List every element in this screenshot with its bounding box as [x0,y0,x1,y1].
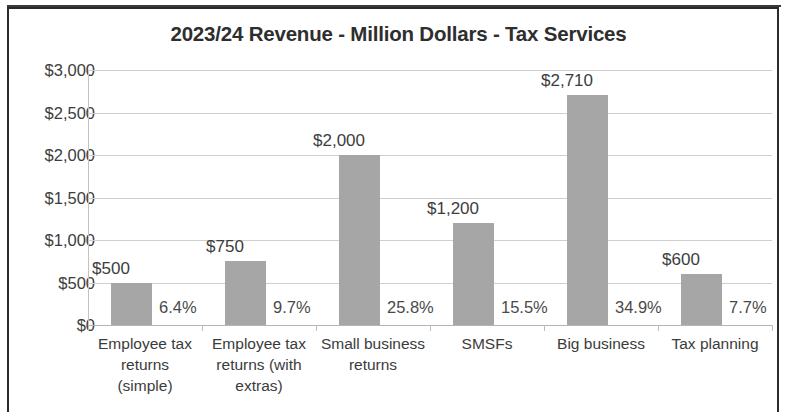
category-label-line: returns [88,354,202,375]
y-axis-tick-label: $1,500 [17,188,95,207]
x-axis-tick [202,325,203,331]
x-axis-category-label: Big business [544,333,658,354]
category-label-line: Small business [316,333,430,354]
x-axis-tick [430,325,431,331]
category-label-line: Employee tax [88,333,202,354]
bar[interactable] [453,223,494,325]
x-axis-category-label: Small businessreturns [316,333,430,375]
y-axis-tick-label: $2,500 [17,103,95,122]
bar-group: $5006.4% [88,70,202,325]
x-axis-category-label: Tax planning [658,333,772,354]
bar[interactable] [111,283,152,326]
x-axis-tick [88,325,89,331]
category-label-line: (simple) [88,375,202,396]
bar-percent-label: 7.7% [729,298,797,317]
bar-value-label: $1,200 [393,199,513,219]
x-axis-tick [316,325,317,331]
bar[interactable] [339,155,380,325]
bar-value-label: $500 [51,259,171,279]
category-label-line: Big business [544,333,658,354]
category-label-line: extras) [202,375,316,396]
y-axis-tick-label: $0 [17,316,95,335]
bar-group: $2,00025.8% [316,70,430,325]
x-axis-category-label: SMSFs [430,333,544,354]
bar-group: $2,71034.9% [544,70,658,325]
x-axis-tick [658,325,659,331]
x-axis-category-label: Employee taxreturns(simple) [88,333,202,396]
bar-value-label: $2,000 [279,131,399,151]
y-axis-tick-label: $1,000 [17,231,95,250]
bar-value-label: $750 [165,237,285,257]
y-axis-tick-label: $3,000 [17,61,95,80]
category-label-line: returns [316,354,430,375]
chart-title: 2023/24 Revenue - Million Dollars - Tax … [0,22,797,46]
bar[interactable] [225,261,266,325]
y-axis-tick-label: $2,000 [17,146,95,165]
plot-area: $5006.4%$7509.7%$2,00025.8%$1,20015.5%$2… [88,70,772,325]
bar-chart: 2023/24 Revenue - Million Dollars - Tax … [0,0,797,416]
x-axis-labels: Employee taxreturns(simple)Employee taxr… [88,333,772,413]
bar-group: $7509.7% [202,70,316,325]
x-axis-tick [772,325,773,331]
bar-value-label: $2,710 [507,71,627,91]
category-label-line: returns (with [202,354,316,375]
category-label-line: Tax planning [658,333,772,354]
bar-group: $6007.7% [658,70,772,325]
x-axis-tick [544,325,545,331]
bar-value-label: $600 [621,250,741,270]
category-label-line: SMSFs [430,333,544,354]
bar[interactable] [681,274,722,325]
bar-group: $1,20015.5% [430,70,544,325]
x-axis-category-label: Employee taxreturns (withextras) [202,333,316,396]
category-label-line: Employee tax [202,333,316,354]
bar[interactable] [567,95,608,325]
